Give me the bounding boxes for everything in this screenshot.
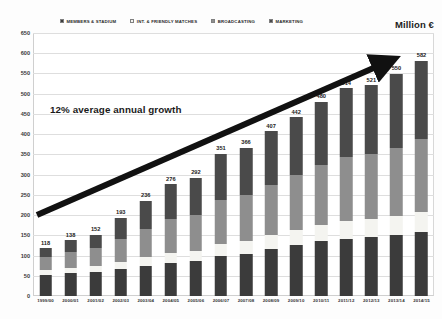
bar-stack[interactable] bbox=[240, 148, 253, 296]
bar-stack[interactable] bbox=[165, 184, 178, 296]
y-axis-tick-label: 200 bbox=[4, 212, 30, 218]
bar-segment[interactable] bbox=[140, 201, 153, 229]
bar-segment[interactable] bbox=[190, 215, 203, 251]
bar-segment[interactable] bbox=[190, 178, 203, 215]
bar-segment[interactable] bbox=[240, 241, 253, 254]
bar-segment[interactable] bbox=[64, 240, 77, 251]
bar-segment[interactable] bbox=[39, 248, 52, 256]
bar-segment[interactable] bbox=[165, 219, 178, 253]
bar-stack[interactable] bbox=[89, 235, 102, 297]
bar-group[interactable]: 351 bbox=[208, 33, 233, 296]
bar-segment[interactable] bbox=[265, 131, 278, 184]
bar-segment[interactable] bbox=[315, 102, 328, 166]
bar-segment[interactable] bbox=[415, 212, 428, 232]
bar-segment[interactable] bbox=[290, 245, 303, 296]
bar-group[interactable]: 118 bbox=[33, 33, 58, 296]
bar-stack[interactable] bbox=[390, 73, 403, 296]
bar-segment[interactable] bbox=[64, 273, 77, 296]
bar-segment[interactable] bbox=[365, 85, 378, 154]
bar-segment[interactable] bbox=[114, 218, 127, 239]
bar-segment[interactable] bbox=[365, 219, 378, 237]
bar-segment[interactable] bbox=[315, 165, 328, 224]
bar-stack[interactable] bbox=[39, 248, 52, 296]
bar-segment[interactable] bbox=[114, 269, 127, 296]
bar-segment[interactable] bbox=[390, 216, 403, 235]
bar-segment[interactable] bbox=[114, 239, 127, 262]
bar-segment[interactable] bbox=[290, 230, 303, 245]
bar-segment[interactable] bbox=[89, 248, 102, 266]
bar-group[interactable]: 582 bbox=[409, 33, 434, 296]
bar-stack[interactable] bbox=[140, 201, 153, 296]
bar-stack[interactable] bbox=[190, 178, 203, 296]
bar-segment[interactable] bbox=[415, 232, 428, 296]
bar-segment[interactable] bbox=[290, 175, 303, 230]
bar-stack[interactable] bbox=[415, 61, 428, 296]
bar-group[interactable]: 550 bbox=[384, 33, 409, 296]
bar-segment[interactable] bbox=[190, 261, 203, 296]
bar-segment[interactable] bbox=[165, 253, 178, 263]
bar-segment[interactable] bbox=[315, 241, 328, 296]
bar-segment[interactable] bbox=[215, 256, 228, 296]
bar-segment[interactable] bbox=[415, 61, 428, 140]
bar-value-label: 193 bbox=[116, 209, 126, 215]
bar-segment[interactable] bbox=[140, 266, 153, 296]
bar-segment[interactable] bbox=[240, 195, 253, 240]
bar-segment[interactable] bbox=[390, 148, 403, 216]
bar-segment[interactable] bbox=[365, 237, 378, 296]
bar-segment[interactable] bbox=[240, 148, 253, 195]
bar-stack[interactable] bbox=[114, 218, 127, 296]
bar-segment[interactable] bbox=[89, 272, 102, 296]
bar-segment[interactable] bbox=[340, 157, 353, 221]
bar-segment[interactable] bbox=[215, 244, 228, 256]
bar-group[interactable]: 138 bbox=[58, 33, 83, 296]
bar-segment[interactable] bbox=[64, 252, 77, 268]
bar-group[interactable]: 366 bbox=[234, 33, 259, 296]
bar-segment[interactable] bbox=[265, 185, 278, 235]
legend-entry[interactable]: BROADCASTING bbox=[211, 19, 255, 24]
bar-group[interactable]: 442 bbox=[284, 33, 309, 296]
bar-segment[interactable] bbox=[140, 257, 153, 266]
legend-entry[interactable]: INT. & FRIENDLY MATCHES bbox=[130, 19, 197, 24]
bar-segment[interactable] bbox=[89, 235, 102, 249]
bar-segment[interactable] bbox=[190, 251, 203, 262]
bar-segment[interactable] bbox=[290, 117, 303, 175]
bar-group[interactable]: 407 bbox=[259, 33, 284, 296]
bar-group[interactable]: 236 bbox=[133, 33, 158, 296]
bar-group[interactable]: 292 bbox=[183, 33, 208, 296]
bar-segment[interactable] bbox=[140, 229, 153, 257]
bar-segment[interactable] bbox=[165, 263, 178, 296]
bar-segment[interactable] bbox=[265, 249, 278, 296]
bar-segment[interactable] bbox=[415, 139, 428, 212]
legend-entry[interactable]: MEMBERS & STADIUM bbox=[60, 19, 116, 24]
bar-segment[interactable] bbox=[114, 262, 127, 269]
x-axis-tick-label: 2013/14 bbox=[388, 298, 405, 303]
bar-group[interactable]: 514 bbox=[334, 33, 359, 296]
bar-segment[interactable] bbox=[39, 257, 52, 270]
bar-segment[interactable] bbox=[165, 184, 178, 219]
bar-stack[interactable] bbox=[365, 85, 378, 296]
bar-group[interactable]: 193 bbox=[108, 33, 133, 296]
bar-group[interactable]: 152 bbox=[83, 33, 108, 296]
bar-segment[interactable] bbox=[390, 235, 403, 296]
bar-segment[interactable] bbox=[240, 254, 253, 296]
bar-stack[interactable] bbox=[290, 117, 303, 296]
bar-segment[interactable] bbox=[365, 154, 378, 219]
bar-segment[interactable] bbox=[340, 221, 353, 239]
bar-segment[interactable] bbox=[215, 200, 228, 244]
bar-segment[interactable] bbox=[315, 225, 328, 242]
bar-segment[interactable] bbox=[215, 154, 228, 200]
bar-group[interactable]: 480 bbox=[309, 33, 334, 296]
legend-entry[interactable]: MARKETING bbox=[269, 19, 303, 24]
bar-group[interactable]: 276 bbox=[158, 33, 183, 296]
bar-segment[interactable] bbox=[340, 88, 353, 157]
bar-stack[interactable] bbox=[340, 88, 353, 296]
bar-stack[interactable] bbox=[64, 240, 77, 296]
bar-segment[interactable] bbox=[39, 275, 52, 296]
bar-stack[interactable] bbox=[315, 102, 328, 296]
bar-group[interactable]: 521 bbox=[359, 33, 384, 296]
bar-segment[interactable] bbox=[340, 239, 353, 296]
bar-stack[interactable] bbox=[215, 154, 228, 296]
bar-stack[interactable] bbox=[265, 131, 278, 296]
bar-segment[interactable] bbox=[265, 235, 278, 249]
bar-segment[interactable] bbox=[390, 74, 403, 148]
